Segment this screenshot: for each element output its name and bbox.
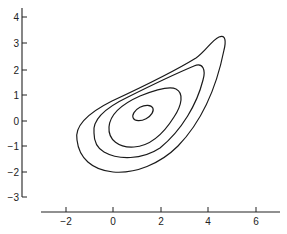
- x-ticks: [66, 207, 256, 212]
- y-tick-label: −3: [8, 192, 20, 203]
- x-tick-label: 0: [110, 216, 116, 227]
- y-ticks: [22, 17, 27, 197]
- contour-level-4: [77, 36, 226, 172]
- y-tick-label: −2: [8, 167, 20, 178]
- contour-level-1: [130, 102, 156, 124]
- x-tick-label: 4: [205, 216, 211, 227]
- contour-plot: 4 3 2 1 0 −1 −2 −3 −2 0 2 4 6: [0, 0, 287, 234]
- y-tick-label: 4: [13, 12, 19, 23]
- x-tick-label: 2: [158, 216, 164, 227]
- y-tick-label: 0: [13, 116, 19, 127]
- contour-level-3: [94, 65, 204, 158]
- contour-lines: [77, 36, 226, 172]
- y-tick-label: −1: [8, 141, 20, 152]
- x-tick-label: 6: [253, 216, 259, 227]
- x-tick-label: −2: [60, 216, 72, 227]
- y-tick-label: 2: [13, 65, 19, 76]
- x-tick-labels: −2 0 2 4 6: [60, 216, 259, 227]
- y-tick-label: 3: [13, 38, 19, 49]
- y-tick-labels: 4 3 2 1 0 −1 −2 −3: [8, 12, 20, 203]
- y-tick-label: 1: [13, 90, 19, 101]
